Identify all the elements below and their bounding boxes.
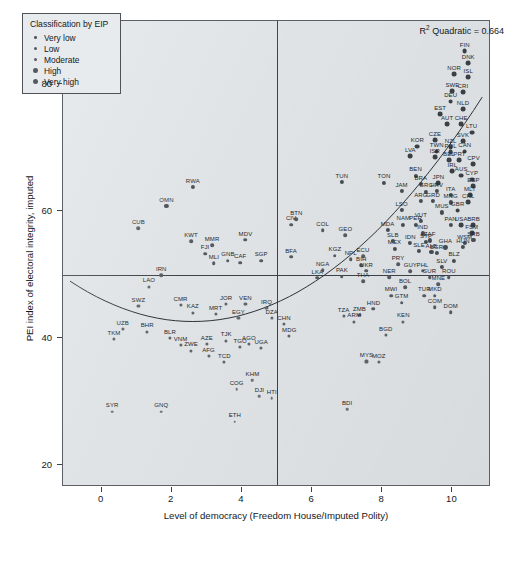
data-point-label: IRQ xyxy=(261,299,272,305)
data-point-label: TKM xyxy=(107,330,120,336)
data-point xyxy=(212,261,216,265)
data-point-label: CAN xyxy=(458,142,471,148)
data-point-label: NER xyxy=(383,268,396,274)
data-point-label: NPL xyxy=(345,250,357,256)
data-point-label: EST xyxy=(434,105,446,111)
data-point xyxy=(210,244,214,248)
data-point-label: MDV xyxy=(239,231,253,237)
legend-item-mod[interactable]: Moderate xyxy=(30,54,108,65)
data-point-label: FSM xyxy=(465,224,478,230)
data-point-label: USA xyxy=(455,216,468,222)
data-point-label: ZWE xyxy=(184,341,198,347)
data-point xyxy=(387,275,391,279)
data-point xyxy=(289,223,293,227)
data-point xyxy=(344,233,348,237)
data-point xyxy=(447,275,451,279)
data-point-label: KOR xyxy=(411,137,424,143)
data-point xyxy=(189,239,193,243)
data-point-label: ISL xyxy=(464,68,473,74)
data-point xyxy=(259,259,263,263)
data-point-label: HND xyxy=(367,300,380,306)
data-point xyxy=(455,208,460,213)
x-axis-tick xyxy=(381,487,382,492)
data-point-label: CAF xyxy=(234,253,246,259)
data-point xyxy=(346,408,349,411)
data-point xyxy=(234,420,237,423)
legend-marker-vlow-icon xyxy=(30,36,41,39)
data-point-label: JOR xyxy=(220,295,232,301)
data-point xyxy=(111,410,114,413)
data-point-label: PHL xyxy=(417,262,429,268)
data-point-label: SLE xyxy=(413,242,425,248)
x-axis-tick xyxy=(311,487,312,492)
data-point xyxy=(449,310,453,314)
data-point-label: JAM xyxy=(395,182,407,188)
data-point xyxy=(258,395,261,398)
data-point-label: LSO xyxy=(395,201,407,207)
data-point xyxy=(159,273,163,277)
data-point-label: LTU xyxy=(466,123,477,129)
legend-item-label: Low xyxy=(44,44,59,54)
data-point-label: JPN xyxy=(433,174,445,180)
data-point-label: SVK xyxy=(457,132,469,138)
data-point xyxy=(321,228,325,232)
data-point-label: IND xyxy=(417,224,428,230)
x-axis-tick xyxy=(451,487,452,492)
data-point-label: GRC xyxy=(419,182,433,188)
data-point-label: TCD xyxy=(218,353,231,359)
data-point-label: KEN xyxy=(397,312,410,318)
data-point-label: BFA xyxy=(285,248,297,254)
y-axis-tick xyxy=(57,210,62,211)
data-point-label: SYR xyxy=(106,402,119,408)
data-point-label: BRA xyxy=(415,175,428,181)
data-point-label: AUT xyxy=(441,115,453,121)
data-point-label: BRB xyxy=(467,216,480,222)
data-point-label: KGZ xyxy=(329,246,342,252)
data-point xyxy=(235,388,238,391)
legend-item-vlow[interactable]: Very low xyxy=(30,32,108,43)
data-point-label: GNB xyxy=(221,251,234,257)
y-axis-tick-label: 80 xyxy=(41,78,52,89)
legend-item-high[interactable]: High xyxy=(30,65,108,76)
data-point xyxy=(459,122,464,127)
legend-marker-high-icon xyxy=(30,68,41,73)
data-point-label: KAZ xyxy=(187,303,199,309)
data-point-label: CIV xyxy=(286,215,296,221)
x-axis-tick-label: 0 xyxy=(98,493,103,504)
legend-item-low[interactable]: Low xyxy=(30,43,108,54)
data-point-label: BGR xyxy=(430,244,443,250)
x-axis-tick xyxy=(101,487,102,492)
data-point xyxy=(445,121,450,126)
legend-item-label: High xyxy=(44,66,61,76)
data-point xyxy=(466,74,471,79)
data-point-label: GTM xyxy=(395,293,409,299)
data-point-label: GBR xyxy=(451,201,464,207)
data-point-label: ITA xyxy=(446,186,455,192)
data-point-label: DNK xyxy=(462,54,475,60)
data-point-label: BEN xyxy=(409,166,422,172)
data-point-label: MMR xyxy=(205,236,220,242)
data-point-label: NLD xyxy=(457,100,469,106)
x-axis-tick-label: 4 xyxy=(238,493,243,504)
data-point-label: ROU xyxy=(442,268,456,274)
data-point-label: UKR xyxy=(360,262,373,268)
data-point xyxy=(251,379,254,382)
data-point-label: AZE xyxy=(201,335,213,341)
y-axis-tick xyxy=(57,337,62,338)
y-axis-label: PEI index of electoral integrity, impute… xyxy=(24,144,35,374)
data-point xyxy=(448,99,453,104)
data-point-label: BDI xyxy=(342,400,352,406)
data-point-label: NGA xyxy=(316,261,329,267)
data-point-label: MNE xyxy=(432,275,446,281)
data-point-label: IDN xyxy=(405,234,416,240)
data-point-label: ETH xyxy=(229,412,241,418)
data-point-label: SUR xyxy=(423,268,436,274)
data-point-label: MLI xyxy=(209,254,219,260)
legend: Classification by EIP Very lowLowModerat… xyxy=(22,13,121,94)
data-point-label: KWT xyxy=(184,232,198,238)
data-point-label: LVA xyxy=(405,147,416,153)
y-axis-tick xyxy=(57,464,62,465)
data-point-label: PRT xyxy=(453,151,465,157)
x-axis-tick xyxy=(171,487,172,492)
data-point-label: POL xyxy=(444,143,456,149)
